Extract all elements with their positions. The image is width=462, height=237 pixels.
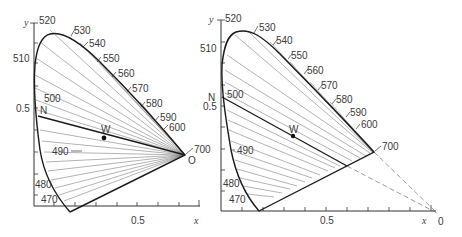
svg-text:600: 600 — [361, 119, 378, 130]
svg-text:0: 0 — [438, 216, 444, 227]
svg-text:590: 590 — [350, 107, 367, 118]
svg-text:540: 540 — [276, 35, 293, 46]
svg-text:550: 550 — [291, 50, 308, 61]
svg-text:0.5: 0.5 — [203, 101, 217, 112]
right-dashed-700-to-o — [374, 152, 437, 213]
svg-text:480: 480 — [35, 179, 52, 190]
svg-text:550: 550 — [103, 53, 120, 64]
svg-text:y: y — [23, 17, 29, 28]
svg-text:470: 470 — [41, 194, 58, 205]
svg-text:O: O — [188, 155, 196, 166]
right-chromaticity-diagram: y 520 530 540 550 560 570 580 590 600 70… — [200, 13, 444, 227]
svg-text:x: x — [421, 215, 427, 226]
left-chromaticity-diagram: y 520 530 540 550 560 570 580 590 600 70… — [13, 15, 211, 226]
svg-text:510: 510 — [200, 43, 217, 54]
svg-text:y: y — [208, 14, 214, 25]
svg-text:490: 490 — [52, 146, 69, 157]
right-axes — [221, 20, 436, 211]
svg-text:530: 530 — [259, 22, 276, 33]
svg-text:470: 470 — [229, 194, 246, 205]
svg-text:500: 500 — [44, 93, 61, 104]
left-point-w — [102, 136, 107, 141]
svg-text:570: 570 — [132, 83, 149, 94]
svg-text:580: 580 — [336, 94, 353, 105]
svg-text:W: W — [289, 124, 299, 135]
svg-text:0.5: 0.5 — [131, 215, 145, 226]
svg-text:W: W — [101, 124, 111, 135]
svg-text:x: x — [193, 215, 199, 226]
svg-text:540: 540 — [89, 38, 106, 49]
svg-text:580: 580 — [146, 98, 163, 109]
svg-text:700: 700 — [194, 144, 211, 155]
svg-text:N: N — [40, 105, 47, 116]
svg-text:500: 500 — [227, 89, 244, 100]
svg-text:0.5: 0.5 — [16, 103, 30, 114]
svg-text:700: 700 — [382, 141, 399, 152]
svg-text:520: 520 — [225, 13, 242, 24]
right-dashed-w-to-o — [347, 166, 437, 213]
svg-text:570: 570 — [321, 80, 338, 91]
svg-text:520: 520 — [39, 15, 56, 26]
svg-text:0.5: 0.5 — [320, 215, 334, 226]
svg-text:560: 560 — [307, 65, 324, 76]
svg-text:480: 480 — [223, 178, 240, 189]
svg-text:560: 560 — [118, 68, 135, 79]
svg-text:530: 530 — [74, 25, 91, 36]
svg-text:600: 600 — [169, 122, 186, 133]
svg-text:510: 510 — [13, 53, 30, 64]
svg-text:490: 490 — [237, 145, 254, 156]
